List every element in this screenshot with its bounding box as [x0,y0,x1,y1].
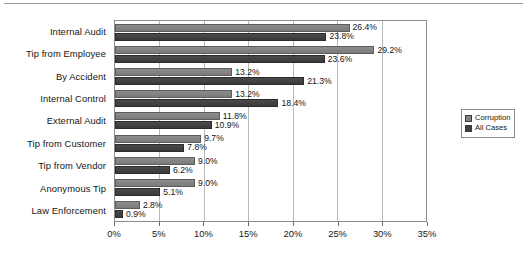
bar-row: 26.4% [115,24,426,32]
bar-value-label: 18.4% [281,99,305,108]
legend-label: Corruption [475,113,510,123]
bar-value-label: 6.2% [173,166,193,175]
bar-value-label: 13.2% [235,90,259,99]
bar-group: 9.0%5.1% [115,177,426,199]
bar-row: 9.0% [115,179,426,187]
x-tick-label: 35% [418,228,437,239]
bar-value-label: 9.0% [198,179,218,188]
x-axis: 0%5%10%15%20%25%30%35% [114,222,427,242]
x-tick [427,222,428,226]
bar-value-label: 10.9% [215,121,239,130]
bar-group: 2.8%0.9% [115,199,426,221]
bar-corruption[interactable] [115,24,350,32]
x-tick [293,222,294,226]
category-label: Internal Control [6,87,110,109]
bar-all-cases[interactable] [115,121,212,129]
bar-value-label: 23.8% [329,32,353,41]
bar-row: 9.7% [115,135,426,143]
bar-all-cases[interactable] [115,166,170,174]
category-label: Tip from Employee [6,42,110,64]
bar-row: 5.1% [115,188,426,196]
x-tick [382,222,383,226]
category-axis: Internal AuditTip from EmployeeBy Accide… [6,20,110,222]
bar-all-cases[interactable] [115,99,278,107]
legend-item[interactable]: Corruption [465,113,510,123]
bar-row: 29.2% [115,46,426,54]
chart-legend: CorruptionAll Cases [461,109,515,138]
bar-row: 11.8% [115,112,426,120]
x-tick [203,222,204,226]
bar-value-label: 23.6% [328,55,352,64]
bar-row: 23.8% [115,33,426,41]
bar-corruption[interactable] [115,179,195,187]
bar-value-label: 5.1% [163,188,183,197]
bar-group: 26.4%23.8% [115,21,426,43]
bar-all-cases[interactable] [115,188,160,196]
x-tick [338,222,339,226]
category-label: Internal Audit [6,20,110,42]
legend-swatch-icon [465,115,472,122]
bar-row: 9.0% [115,157,426,165]
plot-area: 26.4%23.8%29.2%23.6%13.2%21.3%13.2%18.4%… [114,20,427,222]
bar-row: 7.8% [115,144,426,152]
bar-corruption[interactable] [115,90,232,98]
legend-item[interactable]: All Cases [465,123,510,133]
bar-value-label: 21.3% [307,77,331,86]
x-tick [114,222,115,226]
bar-groups: 26.4%23.8%29.2%23.6%13.2%21.3%13.2%18.4%… [115,21,426,221]
bar-group: 11.8%10.9% [115,110,426,132]
bar-value-label: 0.9% [126,210,146,219]
bar-all-cases[interactable] [115,55,325,63]
legend-swatch-icon [465,125,472,132]
bar-all-cases[interactable] [115,210,123,218]
bar-value-label: 29.2% [377,46,401,55]
bar-chart: Internal AuditTip from EmployeeBy Accide… [0,0,527,258]
legend-label: All Cases [475,123,507,133]
bar-corruption[interactable] [115,68,232,76]
bar-row: 21.3% [115,77,426,85]
category-label: Anonymous Tip [6,177,110,199]
bar-value-label: 7.8% [187,143,207,152]
bar-row: 23.6% [115,55,426,63]
bar-group: 9.0%6.2% [115,154,426,176]
bar-all-cases[interactable] [115,144,184,152]
x-tick-label: 30% [373,228,392,239]
bar-all-cases[interactable] [115,33,326,41]
x-tick-label: 25% [328,228,347,239]
bar-row: 10.9% [115,121,426,129]
bar-group: 29.2%23.6% [115,43,426,65]
bar-corruption[interactable] [115,112,220,120]
bar-group: 13.2%18.4% [115,88,426,110]
bar-row: 6.2% [115,166,426,174]
category-label: Tip from Customer [6,132,110,154]
bar-row: 13.2% [115,68,426,76]
bar-row: 13.2% [115,90,426,98]
x-tick-label: 0% [107,228,121,239]
x-tick [248,222,249,226]
bar-row: 2.8% [115,201,426,209]
bar-group: 9.7%7.8% [115,132,426,154]
bar-value-label: 9.0% [198,157,218,166]
category-label: By Accident [6,65,110,87]
bar-corruption[interactable] [115,157,195,165]
x-tick [159,222,160,226]
x-tick-label: 20% [283,228,302,239]
bar-row: 18.4% [115,99,426,107]
bar-value-label: 13.2% [235,68,259,77]
category-label: Tip from Vendor [6,155,110,177]
bar-value-label: 26.4% [353,23,377,32]
x-tick-label: 5% [152,228,166,239]
bar-group: 13.2%21.3% [115,65,426,87]
bar-row: 0.9% [115,210,426,218]
bar-value-label: 9.7% [204,134,224,143]
bar-all-cases[interactable] [115,77,304,85]
x-tick-label: 15% [239,228,258,239]
bar-corruption[interactable] [115,46,374,54]
category-label: Law Enforcement [6,200,110,222]
x-tick-label: 10% [194,228,213,239]
category-label: External Audit [6,110,110,132]
